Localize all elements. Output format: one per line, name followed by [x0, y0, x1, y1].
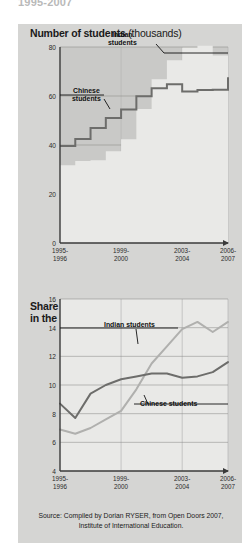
y-tick-label: 4 [52, 468, 56, 475]
source-note: Source: Compiled by Dorian RYSER, from O… [30, 511, 232, 530]
y-tick-label: 12 [49, 353, 56, 360]
y-tick-label: 10 [49, 382, 56, 389]
x-tick-label: 2006-2007 [220, 475, 236, 490]
y-tick-label: 8 [52, 410, 56, 417]
figure2-annotation-chinese: Chinese students [140, 400, 197, 408]
y-tick-label: 80 [49, 44, 56, 51]
figure2-annotation-indian: Indian students [104, 321, 155, 329]
cut-off-headline: 1995-2007 [18, 0, 72, 8]
x-tick-label: 1995-1996 [52, 247, 68, 262]
y-tick-label: 16 [49, 296, 56, 303]
x-tick-label: 1999-2000 [113, 475, 129, 490]
x-tick-label: 1995-1996 [52, 475, 68, 490]
y-tick-label: 0 [52, 240, 56, 247]
figure1-annotation-chinese: Chinese students [72, 87, 101, 103]
x-tick-label: 1999-2000 [113, 247, 129, 262]
figures-panel: Number of students (thousands) 020406080… [18, 24, 242, 543]
figure2-plot: 46810121416 1995-19961999-20002003-20042… [60, 299, 228, 471]
y-tick-label: 14 [49, 324, 56, 331]
y-tick-label: 20 [49, 191, 56, 198]
figure1-svg [60, 47, 228, 243]
x-tick-label: 2003-2004 [174, 247, 190, 262]
y-tick-label: 60 [49, 93, 56, 100]
source-line-1: Source: Compiled by Dorian RYSER, from O… [39, 512, 224, 519]
x-tick-label: 2003-2004 [174, 475, 190, 490]
figure1-annotation-indian: Indian students [108, 31, 137, 47]
figure1-title: Number of students (thousands) [30, 28, 182, 40]
x-tick-label: 2006-2007 [220, 247, 236, 262]
source-line-2: Institute of International Education. [30, 521, 232, 531]
y-tick-label: 6 [52, 439, 56, 446]
figure1-plot: 020406080 1995-19961999-20002003-2004200… [60, 47, 228, 243]
y-tick-label: 40 [49, 142, 56, 149]
